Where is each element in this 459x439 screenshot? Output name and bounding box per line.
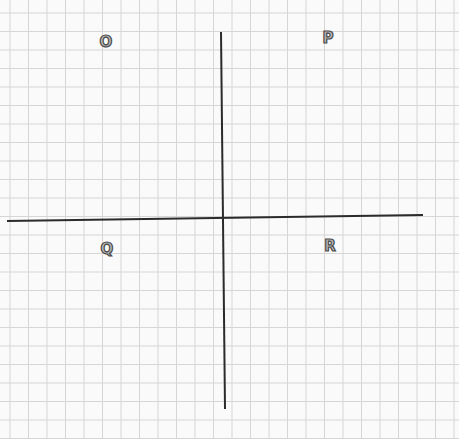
graph-paper: O P Q R xyxy=(0,0,459,439)
quadrant-label-top-right: P xyxy=(323,31,334,46)
quadrant-label-bottom-left: Q xyxy=(101,242,114,257)
axes xyxy=(0,0,459,439)
x-axis-line xyxy=(7,215,423,221)
quadrant-label-top-left: O xyxy=(100,35,113,50)
y-axis-line xyxy=(221,32,225,409)
quadrant-label-bottom-right: R xyxy=(324,239,336,254)
